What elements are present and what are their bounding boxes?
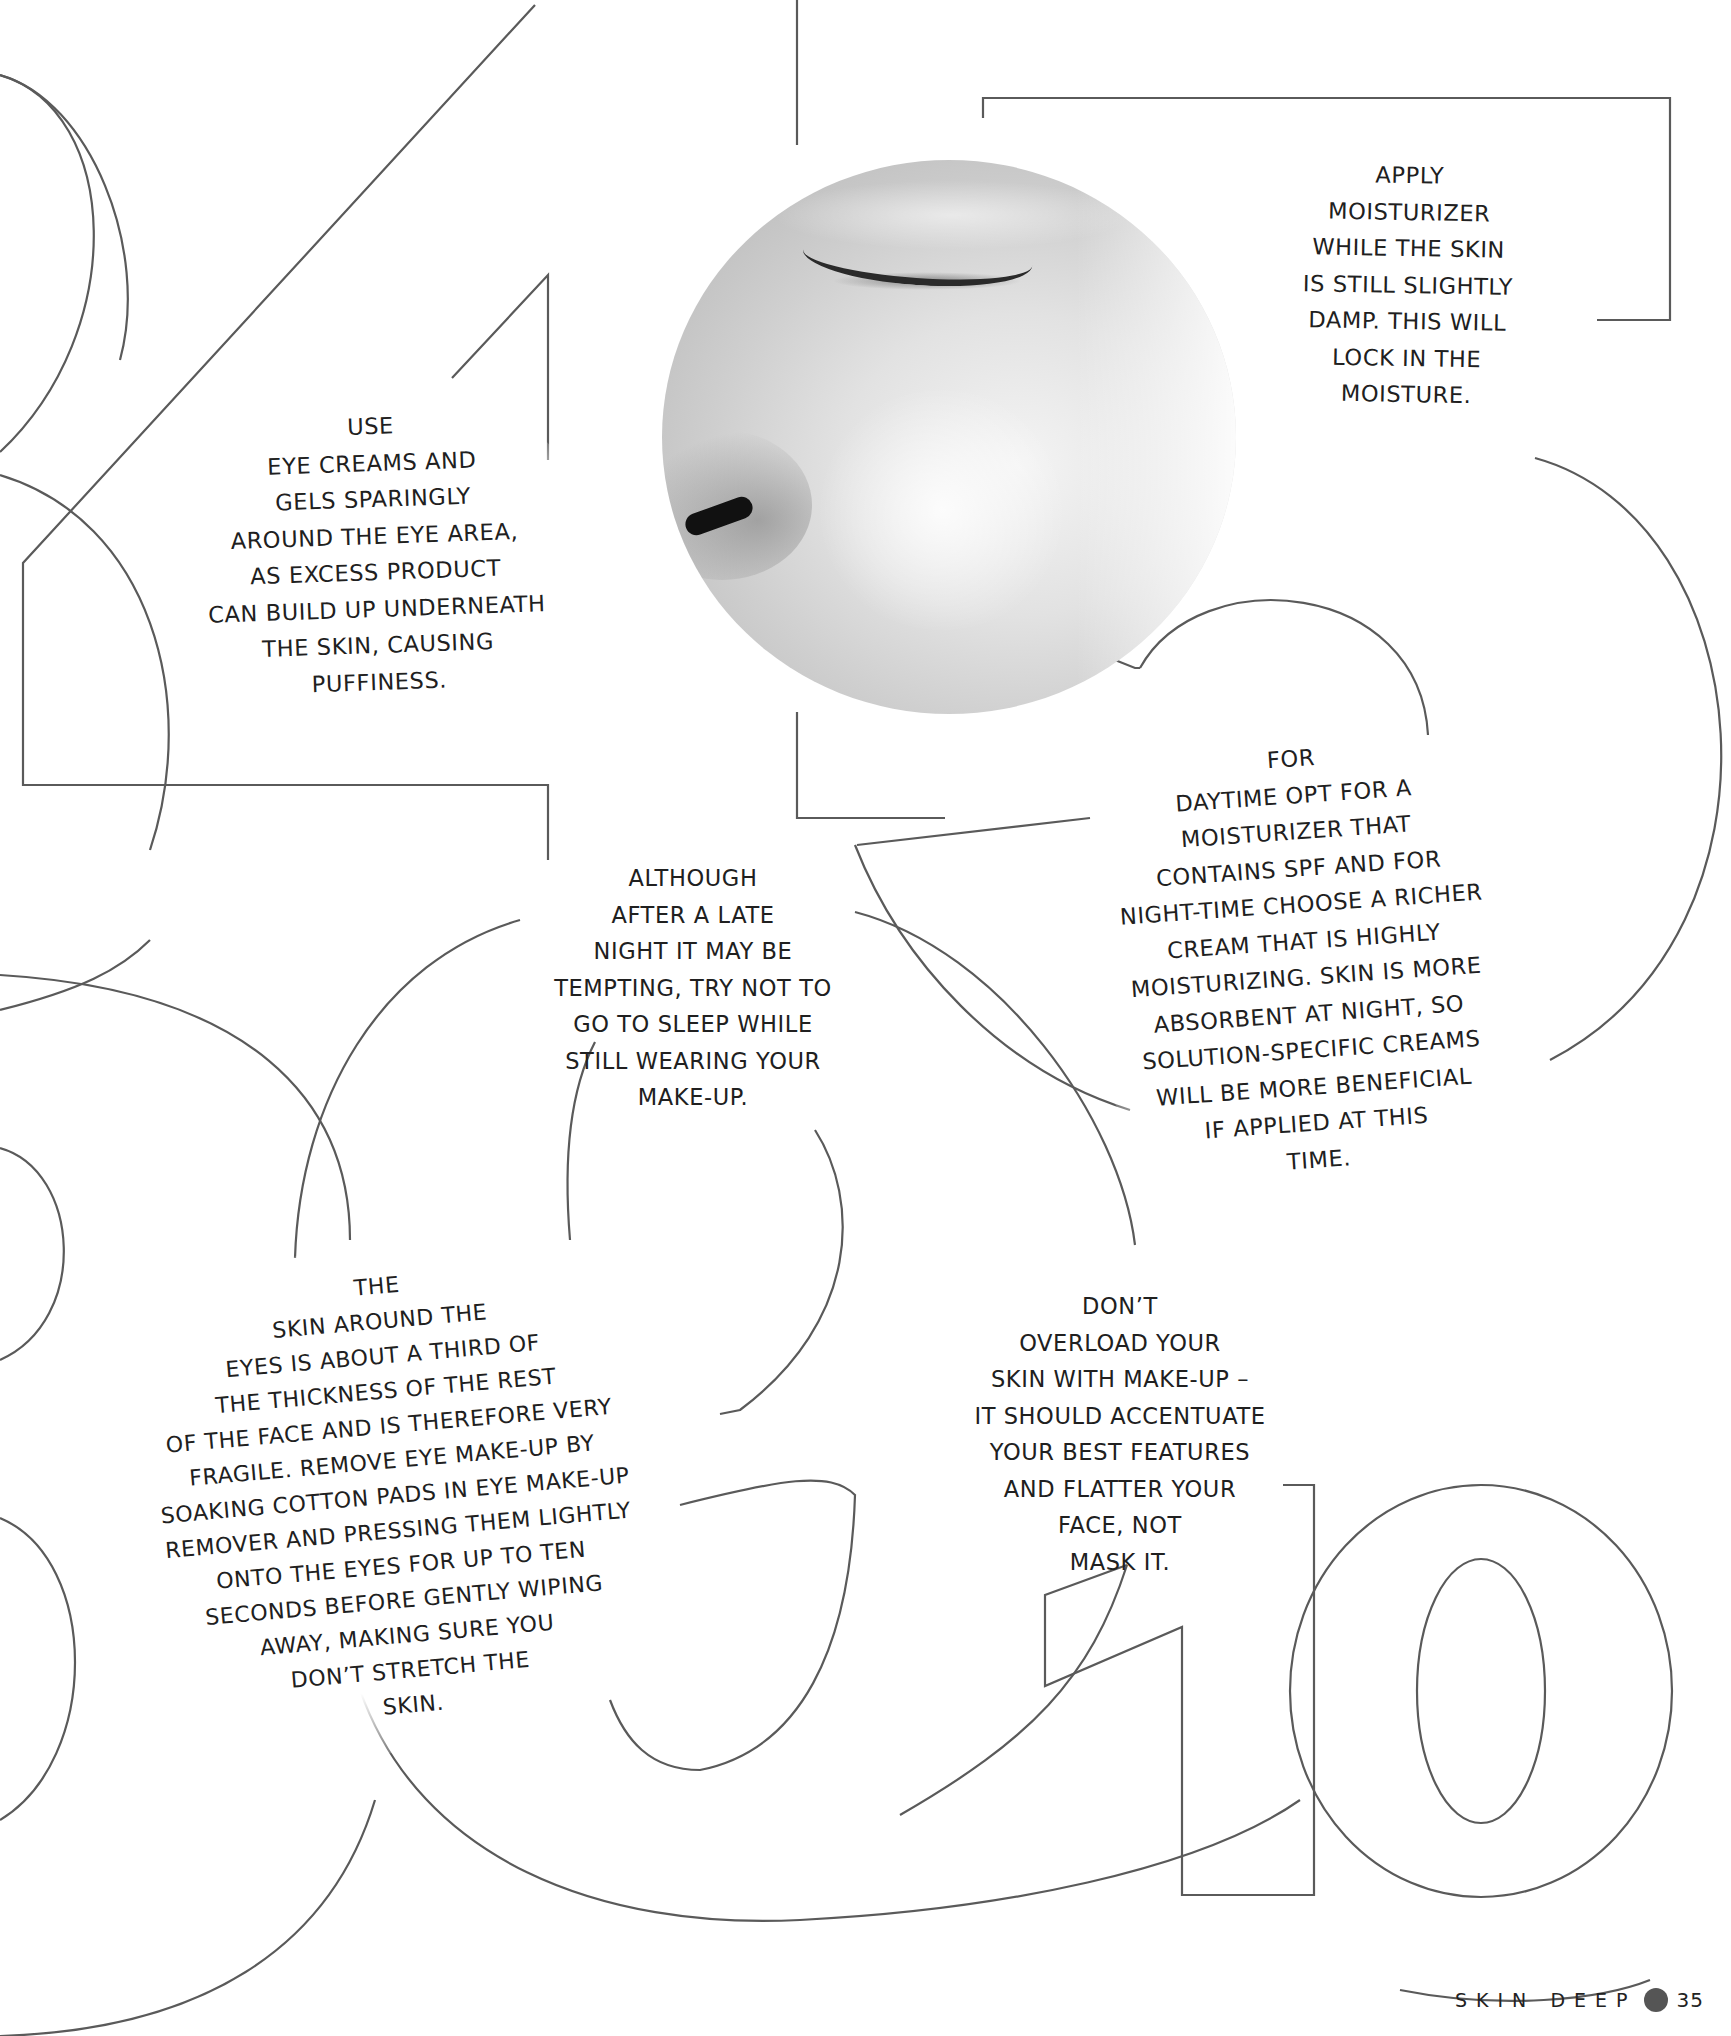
tip-line: STILL WEARING YOUR [548, 1043, 838, 1080]
numeral-9-counter-right [720, 1130, 843, 1414]
tip-line: NIGHT IT MAY BE [548, 933, 838, 970]
magazine-page: USE EYE CREAMS AND GELS SPARINGLY AROUND… [0, 0, 1731, 2036]
numeral-8-inner-upper [0, 1148, 64, 1360]
numeral-9-outer-left [295, 920, 520, 1258]
tip-line: TEMPTING, TRY NOT TO [548, 970, 838, 1007]
tip-line: MASK IT. [960, 1544, 1280, 1581]
photo-cheek-highlight [812, 390, 1072, 630]
section-title: SKIN DEEP [1455, 1989, 1636, 2011]
tip-line: AFTER A LATE [548, 897, 838, 934]
page-number: 35 [1676, 1988, 1703, 2012]
tip-line: DON’T [960, 1288, 1280, 1325]
tip-line: GO TO SLEEP WHILE [548, 1006, 838, 1043]
tip-line: OVERLOAD YOUR [960, 1325, 1280, 1362]
numeral-3-upper-bowl [0, 75, 94, 452]
numeral-8-bottom [0, 1800, 375, 2036]
numeral-3-upper-outer [0, 75, 128, 360]
tip-line: MAKE-UP. [548, 1079, 838, 1116]
tip-line: IS STILL SLIGHTLY [1278, 264, 1539, 305]
numeral-8-arc-b [0, 975, 350, 1240]
numeral-0-outer [1290, 1485, 1672, 1897]
tip-eye-skin: THE SKIN AROUND THE EYES IS ABOUT A THIR… [141, 1248, 649, 1742]
tip-line: DAMP. THIS WILL [1277, 301, 1538, 342]
tip-sleep-makeup: ALTHOUGH AFTER A LATE NIGHT IT MAY BE TE… [548, 860, 838, 1116]
tip-line: LOCK IN THE [1276, 337, 1537, 378]
bullet-dot-icon [1644, 1988, 1668, 2012]
page-footer: SKIN DEEP 35 [1455, 1985, 1704, 2015]
tip-line: IT SHOULD ACCENTUATE [960, 1398, 1280, 1435]
numeral-1-crossing-arc [900, 1565, 1127, 1815]
tip-overload: DON’T OVERLOAD YOUR SKIN WITH MAKE-UP – … [960, 1288, 1280, 1580]
tip-day-night-cream: FOR DAYTIME OPT FOR A MOISTURIZER THAT C… [1095, 727, 1515, 1191]
numeral-5-crossbar [857, 818, 1090, 845]
face-photo-circle [662, 160, 1236, 714]
tip-damp-skin: APPLY MOISTURIZER WHILE THE SKIN IS STIL… [1276, 155, 1540, 415]
tip-line: MOISTURIZER [1279, 191, 1540, 232]
numeral-5-bowl-outer [1535, 458, 1721, 1060]
tip-line: YOUR BEST FEATURES [960, 1434, 1280, 1471]
tip-eye-creams: USE EYE CREAMS AND GELS SPARINGLY AROUND… [190, 402, 560, 706]
tip-line: MOISTURE. [1276, 374, 1537, 415]
tip-line: FACE, NOT [960, 1507, 1280, 1544]
tip-line: WHILE THE SKIN [1278, 228, 1539, 269]
photo-right-fade [1076, 160, 1236, 714]
tip-line: APPLY [1280, 155, 1541, 196]
numeral-8-inner-lower [0, 1518, 75, 1820]
tip-line: AND FLATTER YOUR [960, 1471, 1280, 1508]
numeral-4-bottom-right [797, 712, 945, 818]
numeral-8-arc-c [0, 940, 150, 1010]
tip-line: ALTHOUGH [548, 860, 838, 897]
numeral-8-arc-a [0, 475, 169, 850]
tip-line: SKIN WITH MAKE-UP – [960, 1361, 1280, 1398]
numeral-0-inner [1417, 1559, 1545, 1823]
